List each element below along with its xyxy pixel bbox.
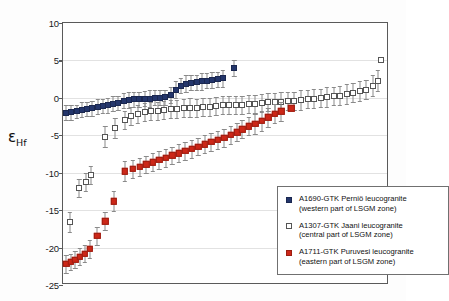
error-bar-cap <box>174 98 178 99</box>
error-bar-cap <box>364 99 368 100</box>
error-bar-cap <box>150 171 154 172</box>
error-bar-cap <box>221 96 225 97</box>
error-bar-cap <box>214 115 218 116</box>
error-bar-cap <box>318 89 322 90</box>
data-point-marker <box>87 246 93 252</box>
error-bar-cap <box>127 108 131 109</box>
legend-label: A1690-GTK Perniö leucogranite(western pa… <box>299 194 407 214</box>
error-bar-cap <box>157 151 161 152</box>
error-bar-cap <box>69 254 73 255</box>
y-axis-tick-mark <box>59 285 63 286</box>
square-marker-icon <box>286 197 292 203</box>
error-bar-cap <box>157 169 161 170</box>
error-bar-cap <box>137 158 141 159</box>
error-bar-cap <box>163 149 167 150</box>
error-bar-cap <box>292 92 296 93</box>
error-bar-cap <box>106 98 110 99</box>
error-bar-cap <box>235 141 239 142</box>
error-bar-cap <box>163 167 167 168</box>
error-bar-cap <box>168 103 172 104</box>
error-bar-cap <box>150 153 154 154</box>
error-bar-cap <box>207 98 211 99</box>
error-bar-cap <box>215 87 219 88</box>
y-axis-tick-label: -10 <box>46 167 59 178</box>
error-bar-cap <box>188 117 192 118</box>
error-bar-cap <box>194 90 198 91</box>
error-bar-cap <box>184 92 188 93</box>
error-bar-cap <box>253 95 257 96</box>
error-bar-cap <box>121 108 125 109</box>
error-bar-cap <box>232 76 236 77</box>
error-bar-cap <box>123 161 127 162</box>
error-bar-cap <box>240 114 244 115</box>
error-bar-cap <box>266 93 270 94</box>
data-point-marker <box>122 168 128 174</box>
error-bar-cap <box>69 105 73 106</box>
error-bar-cap <box>80 102 84 103</box>
error-bar-cap <box>189 90 193 91</box>
error-bar-cap <box>144 156 148 157</box>
error-bar-cap <box>234 96 238 97</box>
error-bar-cap <box>158 105 162 106</box>
error-bar-cap <box>163 105 167 106</box>
error-bar-cap <box>338 86 342 87</box>
error-bar-cap <box>207 116 211 117</box>
error-bar-cap <box>210 88 214 89</box>
error-bar-cap <box>85 116 89 117</box>
error-bar-cap <box>127 92 131 93</box>
error-bar-cap <box>149 120 153 121</box>
error-bar-cap <box>205 73 209 74</box>
data-point-marker <box>220 75 226 81</box>
legend-label-line2: (central part of LSGM zone) <box>299 230 403 240</box>
error-bar-cap <box>209 133 213 134</box>
error-bar-cap <box>279 121 283 122</box>
error-bar-cap <box>216 149 220 150</box>
data-point <box>377 56 385 64</box>
error-bar-cap <box>325 87 329 88</box>
error-bar-cap <box>338 105 342 106</box>
error-bar-cap <box>183 142 187 143</box>
error-bar-cap <box>279 102 283 103</box>
error-bar-cap <box>89 184 93 185</box>
error-bar-cap <box>84 191 88 192</box>
data-point-marker <box>102 134 108 140</box>
error-bar-cap <box>85 102 89 103</box>
error-bar-cap <box>325 107 329 108</box>
error-bar-cap <box>221 114 225 115</box>
data-point <box>66 218 74 226</box>
error-bar-cap <box>240 120 244 121</box>
error-bar-cap <box>155 120 159 121</box>
legend-label-line1: A1690-GTK Perniö leucogranite <box>299 194 407 204</box>
error-bar-cap <box>137 92 141 93</box>
error-bar-cap <box>205 88 209 89</box>
error-bar-cap <box>318 107 322 108</box>
error-bar-cap <box>209 151 213 152</box>
error-bar-cap <box>299 90 303 91</box>
legend-marker <box>285 223 293 229</box>
error-bar-cap <box>286 92 290 93</box>
error-bar-cap <box>67 212 71 213</box>
error-bar-cap <box>175 100 179 101</box>
data-point <box>82 178 90 186</box>
error-bar-cap <box>89 166 93 167</box>
error-bar-cap <box>184 75 188 76</box>
error-bar-cap <box>132 92 136 93</box>
y-axis-tick-label: -20 <box>46 242 59 253</box>
error-bar-cap <box>299 110 303 111</box>
error-bar-cap <box>260 111 264 112</box>
error-bar-cap <box>344 104 348 105</box>
error-bar-cap <box>273 123 277 124</box>
error-bar-cap <box>90 116 94 117</box>
error-bar-cap <box>95 114 99 115</box>
error-bar-cap <box>116 110 120 111</box>
error-bar-cap <box>331 105 335 106</box>
error-bar-cap <box>88 258 92 259</box>
error-bar-cap <box>64 273 68 274</box>
error-bar-cap <box>158 90 162 91</box>
error-bar-cap <box>194 75 198 76</box>
error-bar-cap <box>200 90 204 91</box>
error-bar-cap <box>229 144 233 145</box>
error-bar-cap <box>177 144 181 145</box>
error-bar-cap <box>247 95 251 96</box>
